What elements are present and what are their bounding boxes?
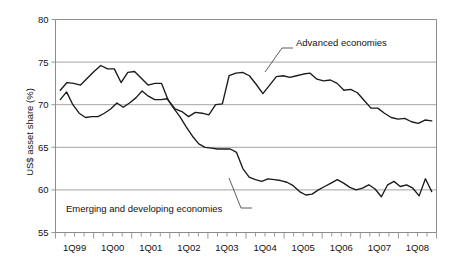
y-tick-label-80: 80 (38, 14, 49, 25)
x-tick-label-1Q00: 1Q00 (101, 242, 124, 253)
x-axis-labels: 1Q991Q001Q011Q021Q031Q041Q051Q061Q071Q08 (63, 242, 429, 253)
x-tick-label-1Q06: 1Q06 (330, 242, 353, 253)
series-annotations: Advanced economies Emerging and developi… (66, 37, 387, 214)
y-tick-label-55: 55 (38, 227, 49, 238)
plot-axes (56, 20, 437, 233)
x-tick-label-1Q08: 1Q08 (406, 242, 429, 253)
series-line-emerging-economies (60, 91, 431, 197)
series-line-advanced-economies (60, 66, 431, 124)
x-axis-ticks (56, 233, 437, 239)
plot-area-wrapper: 556065707580 1Q991Q001Q011Q021Q031Q041Q0… (0, 0, 453, 264)
leader-line-advanced (265, 48, 293, 72)
x-tick-label-1Q05: 1Q05 (292, 242, 315, 253)
y-axis-ticks: 556065707580 (38, 14, 56, 238)
x-tick-label-1Q07: 1Q07 (368, 242, 391, 253)
x-tick-label-1Q01: 1Q01 (139, 242, 162, 253)
y-tick-label-75: 75 (38, 57, 49, 68)
chart-figure: US$ asset share (%) 556065707580 1Q991Q0… (0, 0, 453, 264)
y-tick-label-70: 70 (38, 99, 49, 110)
data-series-group (60, 66, 431, 197)
y-tick-label-65: 65 (38, 142, 49, 153)
x-tick-label-1Q99: 1Q99 (63, 242, 86, 253)
x-tick-label-1Q04: 1Q04 (253, 242, 276, 253)
leader-line-emerging (229, 178, 252, 208)
line-chart-svg: 556065707580 1Q991Q001Q011Q021Q031Q041Q0… (0, 0, 453, 264)
x-tick-label-1Q02: 1Q02 (177, 242, 200, 253)
annotation-emerging-economies: Emerging and developing economies (66, 203, 223, 214)
x-tick-label-1Q03: 1Q03 (215, 242, 238, 253)
annotation-advanced-economies: Advanced economies (296, 37, 387, 48)
y-tick-label-60: 60 (38, 184, 49, 195)
